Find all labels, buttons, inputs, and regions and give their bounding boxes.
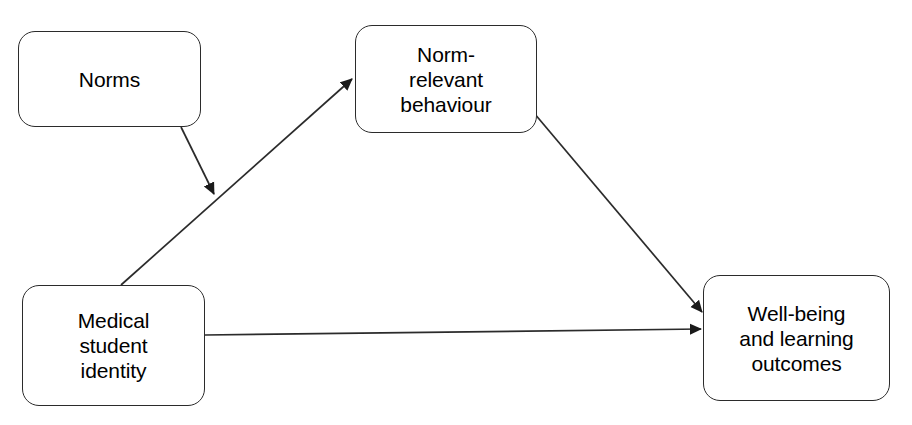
diagram-canvas: Norms Norm- relevant behaviour Medical s… [0, 0, 912, 425]
node-wellbeing-outcomes[interactable]: Well-being and learning outcomes [703, 275, 890, 401]
node-medical-student-identity-label: Medical student identity [74, 308, 154, 383]
node-norm-relevant-behaviour-label: Norm- relevant behaviour [396, 42, 495, 117]
node-norms[interactable]: Norms [18, 31, 201, 127]
node-wellbeing-outcomes-label: Well-being and learning outcomes [735, 301, 857, 376]
edge-behaviour-to-outcomes [534, 113, 702, 312]
node-norm-relevant-behaviour[interactable]: Norm- relevant behaviour [355, 25, 537, 133]
node-norms-label: Norms [75, 67, 144, 92]
node-medical-student-identity[interactable]: Medical student identity [22, 285, 205, 406]
edge-identity-to-outcomes [205, 329, 701, 335]
edge-norms-to-identity-path [181, 127, 214, 194]
